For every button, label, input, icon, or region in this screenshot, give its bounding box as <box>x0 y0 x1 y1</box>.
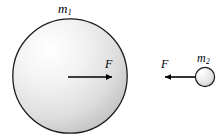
force-label-large: F <box>105 58 112 70</box>
mass-label-m1: m1 <box>58 2 71 15</box>
large-sphere <box>13 19 127 133</box>
force-label-small: F <box>161 58 168 70</box>
mass-label-m1-subscript: 1 <box>68 8 72 17</box>
physics-diagram-figure: m1 m2 F F <box>0 0 223 139</box>
mass-label-m2: m2 <box>197 52 209 64</box>
mass-label-m1-symbol: m <box>58 1 67 16</box>
mass-label-m2-subscript: 2 <box>206 57 210 66</box>
small-sphere <box>195 67 214 86</box>
mass-label-m2-symbol: m <box>197 51 206 65</box>
